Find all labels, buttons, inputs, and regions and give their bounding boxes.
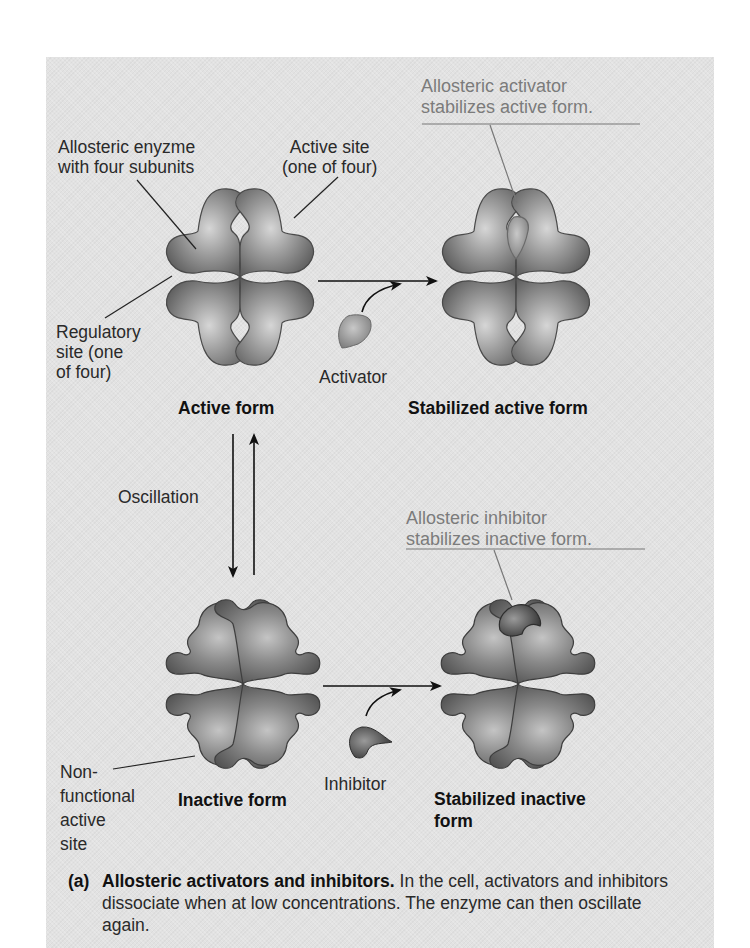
label-line: Regulatory <box>56 322 141 342</box>
label-nonfunctional-site: Non- functional active site <box>60 760 135 856</box>
callout-inhibitor-stabilizes: Allosteric inhibitor stabilizes inactive… <box>406 508 592 550</box>
label-line: site <box>60 832 135 856</box>
stabilized-active-form-enzyme <box>442 189 589 365</box>
stabilized-inactive-form-enzyme <box>441 600 594 769</box>
state-stabilized-inactive-form: Stabilized inactive form <box>434 788 586 832</box>
label-line: form <box>434 810 586 832</box>
label-line: Non- <box>60 760 135 784</box>
label-line: stabilizes inactive form. <box>406 529 592 550</box>
inactive-form-enzyme <box>166 600 319 769</box>
label-inhibitor: Inhibitor <box>324 774 386 794</box>
label-line: stabilizes active form. <box>421 97 593 118</box>
leader-regulatory-site <box>105 276 172 318</box>
label-line: Stabilized inactive <box>434 788 586 810</box>
label-allosteric-enzyme: Allosteric enyzme with four subunits <box>58 137 195 177</box>
label-line: Allosteric activator <box>421 76 593 97</box>
leader-active-site <box>294 177 338 218</box>
label-line: Allosteric enyzme <box>58 137 195 157</box>
label-activator: Activator <box>319 367 387 387</box>
label-line: site (one <box>56 342 141 362</box>
callout-activator-stabilizes: Allosteric activator stabilizes active f… <box>421 76 593 118</box>
label-line: Allosteric inhibitor <box>406 508 592 529</box>
state-stabilized-active-form: Stabilized active form <box>408 398 588 418</box>
state-active-form: Active form <box>178 398 274 418</box>
label-active-site: Active site (one of four) <box>282 137 377 177</box>
leader-inhibitor-callout <box>494 550 512 600</box>
label-line: of four) <box>56 362 141 382</box>
label-line: with four subunits <box>58 157 195 177</box>
caption-tag: (a) <box>68 870 89 892</box>
label-oscillation: Oscillation <box>118 487 199 507</box>
active-form-enzyme <box>166 189 313 365</box>
caption-body: Allosteric activators and inhibitors. In… <box>68 870 688 936</box>
inhibitor-binding-arrow <box>366 690 400 716</box>
activator-molecule <box>339 315 371 348</box>
label-line: functional <box>60 784 135 808</box>
activator-binding-arrow <box>362 284 400 312</box>
inhibitor-molecule <box>350 727 392 758</box>
leader-allosteric-enzyme <box>137 180 196 249</box>
label-regulatory-site: Regulatory site (one of four) <box>56 322 141 382</box>
figure-caption: (a) Allosteric activators and inhibitors… <box>68 870 688 936</box>
label-line: (one of four) <box>282 157 377 177</box>
caption-title: Allosteric activators and inhibitors. <box>102 871 395 891</box>
label-line: active <box>60 808 135 832</box>
label-line: Active site <box>282 137 377 157</box>
state-inactive-form: Inactive form <box>178 790 287 810</box>
